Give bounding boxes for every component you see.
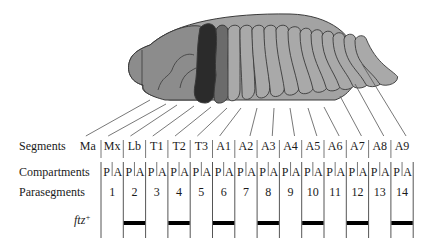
segment-label: A1 bbox=[212, 139, 236, 153]
leader-line bbox=[290, 108, 295, 136]
leader-line bbox=[272, 108, 274, 136]
compartment-label: A bbox=[396, 165, 420, 179]
parasegment-label: 2 bbox=[122, 185, 146, 199]
segment-label: T2 bbox=[167, 139, 191, 153]
parasegment-label: 8 bbox=[256, 185, 280, 199]
parasegment-label: 9 bbox=[279, 185, 303, 199]
segment-label: A7 bbox=[345, 139, 369, 153]
parasegment-label: 6 bbox=[212, 185, 236, 199]
segmentation-figure: Segments Compartments Parasegments ftz+ … bbox=[0, 0, 442, 249]
leader-line bbox=[130, 105, 177, 136]
segment-label: A9 bbox=[390, 139, 414, 153]
segment-label: A3 bbox=[256, 139, 280, 153]
leader-line bbox=[324, 107, 339, 136]
parasegment-label: 1 bbox=[100, 185, 124, 199]
ftz-expression-bar bbox=[347, 221, 368, 225]
segments-row-label: Segments bbox=[19, 139, 66, 153]
parasegment-label: 3 bbox=[145, 185, 169, 199]
segment-label: T3 bbox=[189, 139, 213, 153]
ftz-expression-bar bbox=[302, 221, 323, 225]
compartments-row-label: Compartments bbox=[19, 165, 90, 179]
parasegment-label: 11 bbox=[323, 185, 347, 199]
ftz-expression-bar bbox=[168, 221, 189, 225]
segment-label: Mx bbox=[100, 139, 124, 153]
segment-label: A2 bbox=[234, 139, 258, 153]
leader-line bbox=[153, 106, 194, 136]
leader-line bbox=[250, 108, 257, 136]
parasegment-label: 14 bbox=[390, 185, 414, 199]
segment-label: A4 bbox=[279, 139, 303, 153]
ftz-superscript: + bbox=[85, 213, 90, 222]
parasegment-label: 4 bbox=[167, 185, 191, 199]
segment-label: Lb bbox=[122, 139, 146, 153]
ftz-gene-name: ftz bbox=[74, 213, 85, 227]
ftz-expression-bar bbox=[258, 221, 279, 225]
segment-label: A5 bbox=[301, 139, 325, 153]
parasegment-label: 7 bbox=[234, 185, 258, 199]
ftz-expression-bar bbox=[124, 221, 145, 225]
leader-line bbox=[340, 96, 361, 136]
ftz-expression-bar bbox=[213, 221, 234, 225]
parasegment-label: 12 bbox=[345, 185, 369, 199]
segment-light bbox=[228, 25, 240, 101]
ftz-expression-bar bbox=[391, 221, 412, 225]
parasegment-label: 13 bbox=[368, 185, 392, 199]
segment-label: T1 bbox=[145, 139, 169, 153]
parasegment-label: 10 bbox=[301, 185, 325, 199]
embryo-illustration bbox=[0, 0, 442, 249]
parasegment-label: 5 bbox=[189, 185, 213, 199]
segment-label: A8 bbox=[368, 139, 392, 153]
leader-line bbox=[308, 108, 317, 136]
segment-label: A6 bbox=[323, 139, 347, 153]
embryo-head bbox=[129, 26, 205, 100]
parasegments-row-label: Parasegments bbox=[19, 185, 85, 199]
segment-label: Ma bbox=[76, 139, 100, 153]
ftz-row-label: ftz+ bbox=[74, 213, 91, 227]
leader-line bbox=[175, 107, 211, 136]
